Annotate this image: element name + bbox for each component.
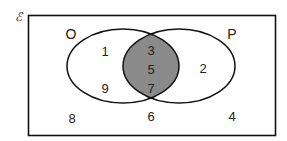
element-intersection: 3 [147, 43, 154, 58]
set-p-label: P [227, 26, 236, 42]
universal-set-symbol: ℰ [15, 10, 24, 24]
element-outside: 8 [68, 111, 75, 126]
element-intersection: 5 [147, 62, 154, 77]
element-outside: 6 [147, 109, 154, 124]
element-intersection: 7 [147, 81, 154, 96]
venn-diagram: ℰ O P 1 9 3 5 7 2 8 6 4 [0, 0, 287, 141]
element-only-p: 2 [199, 61, 206, 76]
set-o-label: O [66, 26, 77, 42]
element-only-o: 9 [101, 81, 108, 96]
element-only-o: 1 [101, 44, 108, 59]
element-outside: 4 [228, 109, 235, 124]
